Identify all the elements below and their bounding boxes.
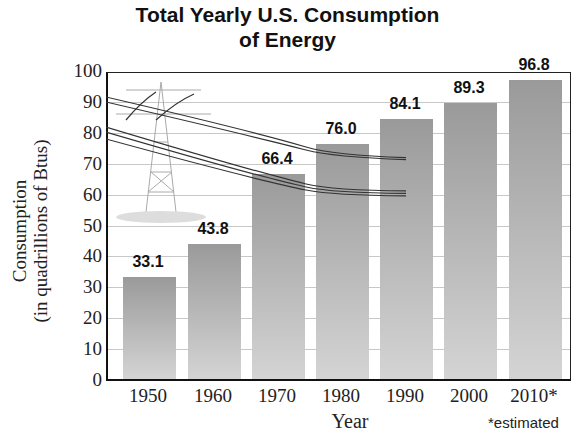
bar-2000 bbox=[444, 103, 497, 379]
y-tick-label: 0 bbox=[50, 370, 102, 389]
chart-title: Total Yearly U.S. Consumption of Energy bbox=[0, 2, 575, 52]
x-axis-label: Year bbox=[300, 410, 400, 433]
y-axis-label-line-1: Consumption bbox=[9, 106, 30, 356]
bar-value-label: 76.0 bbox=[301, 120, 381, 138]
bar-value-label: 66.4 bbox=[237, 150, 317, 168]
power-tower-icon bbox=[106, 72, 406, 272]
bar-value-label: 96.8 bbox=[494, 56, 574, 74]
title-line-1: Total Yearly U.S. Consumption bbox=[0, 2, 575, 27]
y-tick-label: 10 bbox=[50, 339, 102, 358]
y-tick-label: 50 bbox=[50, 216, 102, 235]
bar-value-label: 89.3 bbox=[429, 79, 509, 97]
y-tick-label: 30 bbox=[50, 277, 102, 296]
bar-2010 bbox=[509, 80, 562, 379]
bar-value-label: 43.8 bbox=[173, 220, 253, 238]
y-tick-label: 80 bbox=[50, 123, 102, 142]
y-axis-label: Consumption (in quadrillions of Btus) bbox=[9, 106, 51, 356]
y-tick-label: 100 bbox=[50, 61, 102, 80]
title-line-2: of Energy bbox=[0, 27, 575, 52]
y-tick-label: 70 bbox=[50, 154, 102, 173]
bar-1950 bbox=[123, 277, 176, 379]
bar-value-label: 33.1 bbox=[108, 253, 188, 271]
y-tick-label: 90 bbox=[50, 92, 102, 111]
x-tick-label: 2010* bbox=[494, 385, 574, 407]
y-tick-label: 20 bbox=[50, 308, 102, 327]
footnote-estimated: *estimated bbox=[488, 414, 559, 431]
bar-value-label: 84.1 bbox=[365, 95, 445, 113]
y-axis-label-line-2: (in quadrillions of Btus) bbox=[30, 106, 51, 356]
y-tick-label: 40 bbox=[50, 246, 102, 265]
y-tick-label: 60 bbox=[50, 185, 102, 204]
